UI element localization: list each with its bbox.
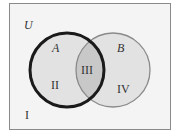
- set-b-label: B: [117, 41, 125, 55]
- region-iv-label: IV: [117, 82, 130, 96]
- region-ii-label: II: [51, 78, 59, 92]
- venn-diagram: U A B II III IV I: [0, 0, 179, 138]
- region-iii-label: III: [81, 63, 93, 77]
- region-i-label: I: [25, 108, 29, 122]
- universe-label: U: [24, 18, 34, 32]
- set-a-label: A: [51, 41, 60, 55]
